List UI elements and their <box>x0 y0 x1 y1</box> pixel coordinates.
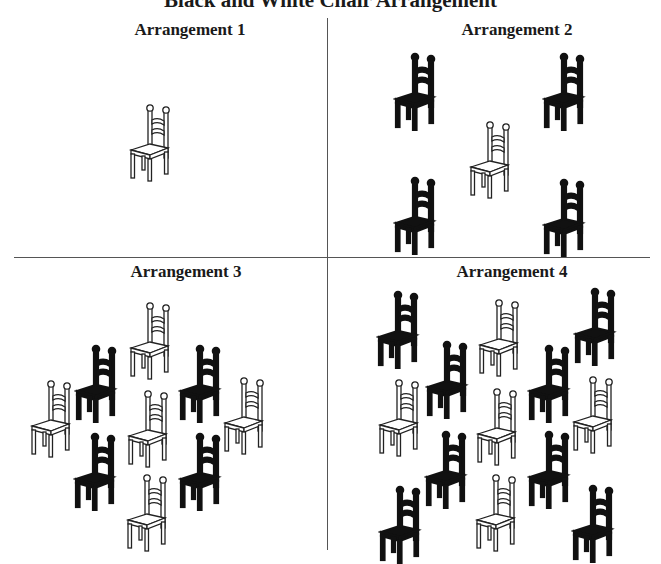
black-chair-icon <box>178 343 224 423</box>
panel-title-2: Arrangement 2 <box>417 20 617 40</box>
panel-title-3: Arrangement 3 <box>86 262 286 282</box>
figure-title: Black and White Chair Arrangement <box>0 0 661 13</box>
black-chair-icon <box>542 177 588 257</box>
panel-title-1: Arrangement 1 <box>90 20 290 40</box>
black-chair-icon <box>571 483 617 563</box>
black-chair-icon <box>424 429 470 509</box>
white-chair-icon <box>126 388 172 468</box>
black-chair-icon <box>527 429 573 509</box>
black-chair-icon <box>74 343 120 423</box>
black-chair-icon <box>376 289 422 369</box>
black-chair-icon <box>378 484 424 564</box>
black-chair-icon <box>542 51 588 131</box>
black-chair-icon <box>573 286 619 366</box>
black-chair-icon <box>393 175 439 255</box>
white-chair-icon <box>571 374 617 454</box>
white-chair-icon <box>128 300 174 380</box>
white-chair-icon <box>128 102 174 182</box>
horizontal-divider <box>14 257 650 258</box>
white-chair-icon <box>475 386 521 466</box>
black-chair-icon <box>73 431 119 511</box>
white-chair-icon <box>125 472 171 552</box>
white-chair-icon <box>477 297 523 377</box>
vertical-divider <box>327 18 328 550</box>
white-chair-icon <box>468 119 514 199</box>
white-chair-icon <box>474 472 520 552</box>
black-chair-icon <box>527 343 573 423</box>
white-chair-icon <box>29 378 75 458</box>
white-chair-icon <box>222 375 268 455</box>
black-chair-icon <box>393 51 439 131</box>
black-chair-icon <box>178 431 224 511</box>
black-chair-icon <box>425 339 471 419</box>
white-chair-icon <box>377 377 423 457</box>
panel-title-4: Arrangement 4 <box>412 262 612 282</box>
